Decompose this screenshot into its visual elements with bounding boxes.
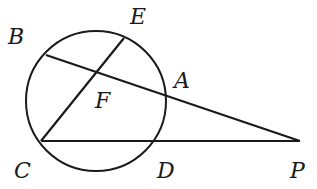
label-c: C xyxy=(14,158,31,183)
label-a: A xyxy=(172,68,190,93)
segment-ce xyxy=(41,38,124,141)
segment-bp xyxy=(46,55,300,141)
label-d: D xyxy=(156,158,175,183)
label-p: P xyxy=(289,158,306,183)
label-b: B xyxy=(7,24,24,49)
geometry-diagram: B E A F C D P xyxy=(0,0,317,189)
label-e: E xyxy=(129,4,146,29)
label-f: F xyxy=(94,88,111,113)
